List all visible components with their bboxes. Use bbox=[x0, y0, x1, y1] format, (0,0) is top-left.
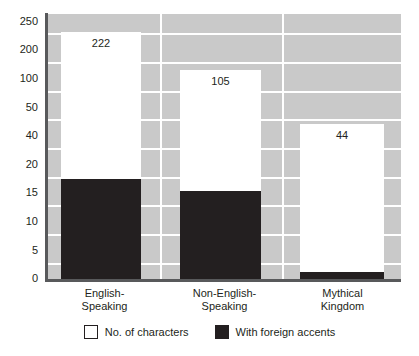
legend-swatch-black-square-icon bbox=[215, 325, 229, 339]
x-category-line-2: Speaking bbox=[168, 300, 281, 313]
bar-value-label: 105 bbox=[180, 76, 261, 87]
x-category-label-english-speaking: English- Speaking bbox=[48, 287, 161, 313]
x-axis-line bbox=[45, 279, 401, 282]
bar-value-label: 222 bbox=[61, 38, 141, 49]
bar-segment-characters bbox=[300, 124, 384, 279]
legend-swatch-white-square-icon bbox=[84, 325, 98, 339]
legend-label-foreign-accents: With foreign accents bbox=[236, 327, 336, 338]
y-tick-label-10: 10 bbox=[4, 216, 38, 227]
x-category-line-1: Mythical bbox=[291, 287, 394, 300]
x-category-line-2: Kingdom bbox=[291, 300, 394, 313]
y-tick-label-50: 50 bbox=[4, 102, 38, 113]
x-category-line-1: Non-English- bbox=[168, 287, 281, 300]
plot-area: 222 105 44 bbox=[48, 14, 401, 279]
bar-chart: 222 105 44 250 200 100 50 40 20 15 10 5 … bbox=[0, 0, 419, 356]
bar-value-label: 44 bbox=[300, 130, 384, 141]
bar-segment-foreign-accents bbox=[180, 191, 261, 279]
y-tick-label-100: 100 bbox=[4, 73, 38, 84]
gridline-vertical bbox=[282, 14, 284, 279]
gridline-vertical bbox=[160, 14, 162, 279]
y-tick-label-20: 20 bbox=[4, 159, 38, 170]
legend-item-characters: No. of characters bbox=[84, 325, 189, 339]
x-category-line-1: English- bbox=[48, 287, 161, 300]
y-tick-label-200: 200 bbox=[4, 44, 38, 55]
x-category-line-2: Speaking bbox=[48, 300, 161, 313]
y-axis-line bbox=[45, 13, 48, 280]
y-tick-label-40: 40 bbox=[4, 130, 38, 141]
bar-mythical-kingdom: 44 bbox=[300, 124, 384, 279]
chart-legend: No. of characters With foreign accents bbox=[0, 325, 419, 339]
bar-segment-foreign-accents bbox=[61, 179, 141, 279]
y-tick-label-5: 5 bbox=[4, 245, 38, 256]
bar-non-english-speaking: 105 bbox=[180, 70, 261, 279]
legend-item-foreign-accents: With foreign accents bbox=[215, 325, 336, 339]
bar-segment-foreign-accents bbox=[300, 272, 384, 279]
y-tick-label-15: 15 bbox=[4, 187, 38, 198]
x-category-label-mythical-kingdom: Mythical Kingdom bbox=[291, 287, 394, 313]
y-tick-label-0: 0 bbox=[4, 273, 38, 284]
bar-english-speaking: 222 bbox=[61, 32, 141, 279]
x-category-label-non-english-speaking: Non-English- Speaking bbox=[168, 287, 281, 313]
legend-label-characters: No. of characters bbox=[105, 327, 189, 338]
y-tick-label-250: 250 bbox=[4, 16, 38, 27]
